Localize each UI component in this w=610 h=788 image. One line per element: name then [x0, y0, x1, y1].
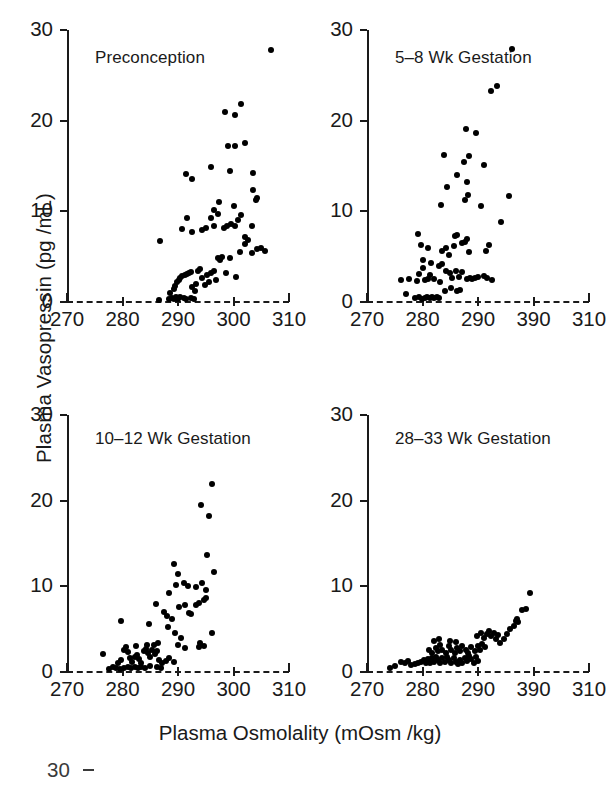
- data-point: [441, 152, 447, 158]
- data-point: [504, 631, 510, 637]
- data-point: [203, 587, 209, 593]
- data-point: [262, 248, 268, 254]
- panel-title: Preconception: [95, 48, 205, 68]
- data-point: [523, 606, 529, 612]
- data-point: [501, 636, 507, 642]
- y-axis-tick-label: 30: [0, 19, 53, 40]
- data-point: [515, 619, 521, 625]
- data-point: [237, 249, 243, 255]
- data-point: [118, 618, 124, 624]
- data-point: [444, 184, 450, 190]
- data-point: [250, 170, 256, 176]
- x-axis-tick-label: 310: [559, 679, 610, 700]
- x-axis-tick-label: 290: [448, 309, 508, 330]
- data-point: [165, 624, 171, 630]
- x-axis-tick: [233, 667, 235, 676]
- y-axis-tick: [360, 120, 367, 122]
- data-point: [245, 237, 251, 243]
- data-point: [171, 659, 177, 665]
- data-point: [461, 159, 467, 165]
- data-point: [213, 277, 219, 283]
- data-point: [208, 215, 214, 221]
- data-point: [425, 245, 431, 251]
- x-axis-tick: [588, 663, 590, 672]
- data-point: [118, 657, 124, 663]
- data-point: [232, 112, 238, 118]
- data-point: [498, 219, 504, 225]
- data-point: [198, 502, 204, 508]
- data-point: [442, 288, 448, 294]
- y-axis-tick: [360, 414, 367, 416]
- data-point: [506, 193, 512, 199]
- y-axis-tick: [60, 120, 67, 122]
- x-axis-tick-label: 290: [148, 309, 208, 330]
- x-axis-tick-label: 280: [393, 309, 453, 330]
- data-point: [133, 643, 139, 649]
- x-axis-tick-label: 290: [148, 679, 208, 700]
- figure-x-axis-label: Plasma Osmolality (mOsm /kg): [0, 721, 600, 745]
- x-axis-tick-label: 310: [259, 309, 319, 330]
- data-point: [188, 269, 194, 275]
- y-axis-tick: [360, 29, 367, 31]
- data-point: [233, 274, 239, 280]
- data-point: [437, 279, 443, 285]
- data-point: [185, 583, 191, 589]
- data-point: [209, 630, 215, 636]
- data-point: [464, 236, 470, 242]
- y-axis-tick-label: 30: [0, 404, 53, 425]
- data-point: [193, 584, 199, 590]
- panel-title: 28–33 Wk Gestation: [395, 429, 551, 449]
- data-point: [197, 266, 203, 272]
- x-axis-tick: [122, 297, 124, 306]
- data-point: [431, 276, 437, 282]
- panel-10-12-wk-gestation: 010203027028029030031010–12 Wk Gestation: [67, 415, 289, 672]
- data-point: [392, 663, 398, 669]
- x-axis-tick-label: 280: [93, 679, 153, 700]
- data-point: [403, 291, 409, 297]
- y-axis-spine: [367, 30, 369, 302]
- data-point: [398, 277, 404, 283]
- data-point: [193, 281, 199, 287]
- y-axis-tick-label: 20: [293, 110, 353, 131]
- data-point: [158, 665, 164, 671]
- data-point: [418, 242, 424, 248]
- data-point: [466, 153, 472, 159]
- data-point: [482, 644, 488, 650]
- data-point: [242, 140, 248, 146]
- x-axis-tick-label: 300: [204, 679, 264, 700]
- data-point: [183, 171, 189, 177]
- data-point: [138, 660, 144, 666]
- y-axis-tick: [360, 500, 367, 502]
- x-axis-tick: [477, 667, 479, 676]
- data-point: [211, 268, 217, 274]
- data-point: [464, 179, 470, 185]
- data-point: [219, 254, 225, 260]
- x-axis-tick: [288, 293, 290, 302]
- data-point: [191, 296, 197, 302]
- panel-28-33-wk-gestation: 010203027028029039031028–33 Wk Gestation: [367, 415, 589, 672]
- data-point: [475, 658, 481, 664]
- data-point: [169, 616, 175, 622]
- y-axis-tick-label: 30: [293, 404, 353, 425]
- panel-title: 10–12 Wk Gestation: [95, 429, 251, 449]
- data-point: [171, 561, 177, 567]
- data-point: [222, 109, 228, 115]
- y-axis-tick-label: 20: [0, 490, 53, 511]
- data-point: [231, 203, 237, 209]
- x-axis-tick-label: 280: [93, 309, 153, 330]
- data-point: [209, 481, 215, 487]
- data-point: [465, 192, 471, 198]
- y-axis-tick-label: 10: [0, 575, 53, 596]
- data-point: [203, 595, 209, 601]
- y-axis-tick: [60, 210, 67, 212]
- y-axis-tick-label: 10: [293, 575, 353, 596]
- data-point: [238, 212, 244, 218]
- next-figure-fragment: 30: [0, 752, 600, 788]
- data-point: [211, 223, 217, 229]
- x-axis-tick-label: 310: [559, 309, 610, 330]
- data-point: [420, 257, 426, 263]
- data-point: [179, 226, 185, 232]
- y-axis-tick: [60, 29, 67, 31]
- data-point: [254, 195, 260, 201]
- data-point: [173, 582, 179, 588]
